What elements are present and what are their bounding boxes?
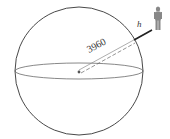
person-icon — [154, 6, 162, 30]
height-segment — [134, 30, 152, 40]
radius-label: 3960 — [85, 36, 108, 55]
center-point — [78, 71, 81, 74]
sphere-diagram: 3960 h — [0, 0, 170, 139]
height-label: h — [137, 19, 142, 29]
